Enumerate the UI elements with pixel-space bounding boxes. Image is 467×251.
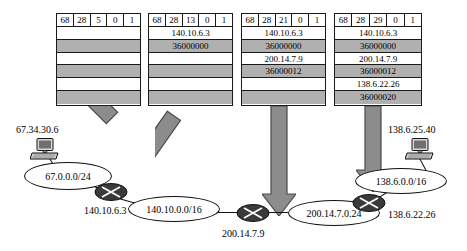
packet-4-header-cell-4: 1 — [405, 14, 421, 26]
packet-3-row-5 — [242, 91, 325, 104]
packet-1-row-0 — [57, 27, 140, 40]
packet-4-header-cell-0: 68 — [335, 14, 352, 26]
packet-2-header-cell-2: 13 — [183, 14, 200, 26]
packet-2-header-cell-4: 1 — [216, 14, 232, 26]
packet-3-row-4 — [242, 78, 325, 91]
packet-2-row-2 — [149, 53, 232, 66]
packet-4-row-3: 36000012 — [335, 65, 421, 78]
workstation-destination-icon — [405, 138, 435, 162]
packet-4-header-cell-1: 28 — [352, 14, 369, 26]
destination-host-label: 138.6.25.40 — [388, 124, 436, 135]
packet-1-header: 68 28 5 0 1 — [57, 14, 140, 27]
packet-3-header-cell-3: 0 — [292, 14, 309, 26]
router-label-200: 200.14.7.9 — [222, 228, 265, 239]
router-200 — [236, 203, 270, 223]
workstation-source-icon — [30, 138, 60, 162]
packet-4-row-2: 200.14.7.9 — [335, 53, 421, 66]
router-label-140: 140.10.6.3 — [84, 205, 127, 216]
packet-1-row-4 — [57, 78, 140, 91]
packet-3-header-cell-4: 1 — [309, 14, 325, 26]
router-140 — [94, 182, 128, 202]
packet-3-row-3: 36000012 — [242, 65, 325, 78]
router-138 — [352, 193, 386, 213]
cloud-140-label: 140.10.0.0/16 — [146, 204, 201, 215]
packet-2-row-1: 36000000 — [149, 40, 232, 53]
arrow-packet-2-to-router-140 — [155, 106, 247, 198]
packet-4-header: 68 28 29 0 1 — [335, 14, 421, 27]
router-label-138: 138.6.22.26 — [388, 209, 436, 220]
packet-1-row-2 — [57, 53, 140, 66]
packet-2: 68 28 13 0 1 140.10.6.3 36000000 — [148, 13, 233, 106]
packet-4-row-5: 36000020 — [335, 91, 421, 104]
packet-3: 68 28 21 0 1 140.10.6.3 36000000 200.14.… — [241, 13, 326, 106]
packet-3-header: 68 28 21 0 1 — [242, 14, 325, 27]
packet-2-header: 68 28 13 0 1 — [149, 14, 232, 27]
packet-2-header-cell-3: 0 — [199, 14, 216, 26]
source-host-label: 67.34.30.6 — [16, 124, 59, 135]
cloud-138: 138.6.0.0/16 — [355, 168, 447, 194]
packet-1-header-cell-1: 28 — [74, 14, 91, 26]
packet-1-header-cell-0: 68 — [57, 14, 74, 26]
packet-1-row-3 — [57, 65, 140, 78]
arrow-packet-1-to-host — [62, 106, 124, 168]
packet-3-row-0: 140.10.6.3 — [242, 27, 325, 40]
cloud-67-label: 67.0.0.0/24 — [45, 171, 90, 182]
packet-2-row-4 — [149, 78, 232, 91]
packet-2-row-5 — [149, 91, 232, 104]
packet-2-header-cell-1: 28 — [166, 14, 183, 26]
packet-3-header-cell-2: 21 — [276, 14, 293, 26]
packet-2-header-cell-0: 68 — [149, 14, 166, 26]
packet-1-header-cell-4: 1 — [124, 14, 140, 26]
packet-1-row-5 — [57, 91, 140, 104]
packet-1: 68 28 5 0 1 — [56, 13, 141, 106]
packet-3-row-2: 200.14.7.9 — [242, 53, 325, 66]
cloud-138-label: 138.6.0.0/16 — [376, 176, 426, 187]
packet-4: 68 28 29 0 1 140.10.6.3 36000000 200.14.… — [334, 13, 422, 106]
packet-1-row-1 — [57, 40, 140, 53]
cloud-140: 140.10.0.0/16 — [128, 196, 220, 222]
packet-3-header-cell-1: 28 — [259, 14, 276, 26]
packet-2-row-0: 140.10.6.3 — [149, 27, 232, 40]
packet-4-row-0: 140.10.6.3 — [335, 27, 421, 40]
packet-1-header-cell-3: 0 — [107, 14, 124, 26]
packet-4-header-cell-3: 0 — [387, 14, 404, 26]
diagram-canvas: 68 28 5 0 1 68 28 13 0 1 140.10.6.3 3600… — [0, 0, 467, 251]
packet-3-header-cell-0: 68 — [242, 14, 259, 26]
packet-2-row-3 — [149, 65, 232, 78]
packet-4-row-1: 36000000 — [335, 40, 421, 53]
packet-4-header-cell-2: 29 — [370, 14, 387, 26]
packet-1-header-cell-2: 5 — [91, 14, 108, 26]
packet-3-row-1: 36000000 — [242, 40, 325, 53]
arrow-packet-3-to-router-200 — [262, 106, 296, 216]
packet-4-row-4: 138.6.22.26 — [335, 78, 421, 91]
